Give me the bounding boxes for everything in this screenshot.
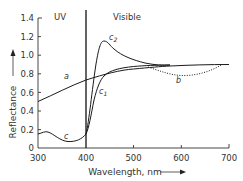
y-tick-0.8: 0.8 [20,69,34,79]
y-tick-0: 0 [29,143,34,153]
curve-b-label: b [176,76,181,85]
curve-c [38,132,86,142]
curves [38,41,229,142]
axes [38,18,229,148]
curve-b [148,65,222,76]
curve-c1 [86,65,170,134]
x-tick-labels: 300 400 500 600 700 [30,153,237,163]
visible-label: Visible [113,12,141,22]
curve-a [38,65,229,102]
x-tick-500: 500 [125,153,141,163]
y-tick-1.4: 1.4 [20,13,34,23]
reflectance-chart: 0 0.2 0.4 0.6 0.8 1.0 1.2 1.4 300 400 50… [0,0,243,181]
y-axis-arrow-icon [11,49,16,76]
y-tick-1.0: 1.0 [20,50,34,60]
x-tick-300: 300 [30,153,46,163]
curve-c1-label: c1 [99,87,107,97]
curve-c2-label: c2 [109,33,117,43]
uv-label: UV [54,12,66,22]
x-tick-400: 400 [78,153,94,163]
y-tick-0.6: 0.6 [20,88,34,98]
y-tick-1.2: 1.2 [20,32,34,42]
x-axis-title: Wavelength, nm [88,167,162,177]
x-axis-arrow-icon [160,170,186,175]
y-tick-0.2: 0.2 [20,125,34,135]
x-tick-700: 700 [221,153,237,163]
y-axis-title: Reflectance [8,85,18,138]
x-tick-600: 600 [173,153,189,163]
y-tick-0.4: 0.4 [20,106,34,116]
curve-c-label: c [64,132,69,141]
curve-a-label: a [64,72,69,81]
y-tick-labels: 0 0.2 0.4 0.6 0.8 1.0 1.2 1.4 [20,13,34,153]
